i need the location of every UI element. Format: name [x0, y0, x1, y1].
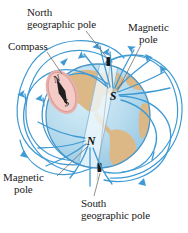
label-south-geographic-pole-line1: South [81, 197, 106, 209]
label-compass: Compass [8, 41, 48, 53]
label-magnetic-pole-south-line2: pole [3, 184, 44, 196]
label-magnetic-pole-north-line2: pole [128, 34, 169, 46]
label-north-geographic-pole: North geographic pole [27, 7, 96, 30]
magnetic-south-pole-letter: S [110, 89, 117, 103]
label-magnetic-pole-south-line1: Magnetic [3, 171, 44, 183]
label-magnetic-pole-north: Magnetic pole [128, 22, 169, 45]
label-south-geographic-pole: South geographic pole [81, 198, 150, 221]
label-north-geographic-pole-line2: geographic pole [27, 19, 96, 31]
earth-magnetic-field-figure: N S S N North geographic pole Magnetic p… [0, 0, 188, 233]
label-magnetic-pole-south: Magnetic pole [3, 172, 44, 195]
leader-south-geographic-pole [94, 173, 100, 196]
label-north-geographic-pole-line1: North [27, 6, 52, 18]
magnetic-north-pole-letter: N [86, 134, 97, 148]
label-magnetic-pole-north-line1: Magnetic [128, 21, 169, 33]
label-south-geographic-pole-line2: geographic pole [81, 210, 150, 222]
label-compass-line1: Compass [8, 40, 48, 52]
